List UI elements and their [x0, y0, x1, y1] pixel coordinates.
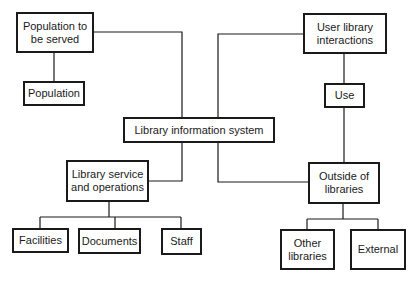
node-label: Library information system	[135, 124, 264, 137]
node-outside-of-libraries: Outside of libraries	[308, 162, 380, 204]
node-documents: Documents	[78, 228, 141, 254]
edge-center-lso	[148, 142, 182, 181]
edge-center-outside	[218, 142, 308, 182]
node-library-service-and-operations: Library service and operations	[66, 160, 149, 202]
node-label: Use	[335, 89, 355, 102]
node-population: Population	[23, 81, 85, 106]
node-facilities: Facilities	[12, 228, 69, 253]
node-staff: Staff	[161, 228, 202, 255]
node-library-information-system: Library information system	[123, 117, 275, 143]
node-label: Documents	[82, 235, 138, 248]
node-other-libraries: Other libraries	[280, 229, 335, 270]
node-label: Population to be served	[20, 20, 90, 46]
node-external: External	[350, 229, 406, 270]
node-label: Library service and operations	[70, 168, 145, 194]
node-population-to-be-served: Population to be served	[16, 12, 94, 53]
edge-pts-center	[93, 32, 182, 117]
node-label: Staff	[170, 235, 192, 248]
node-label: Facilities	[19, 234, 62, 247]
node-label: User library interactions	[307, 21, 383, 47]
edge-uli-center	[218, 34, 303, 117]
node-label: Other libraries	[284, 237, 331, 263]
node-label: Population	[28, 87, 80, 100]
node-use: Use	[324, 83, 365, 108]
node-label: External	[358, 243, 398, 256]
node-label: Outside of libraries	[312, 170, 376, 196]
node-user-library-interactions: User library interactions	[303, 13, 387, 54]
